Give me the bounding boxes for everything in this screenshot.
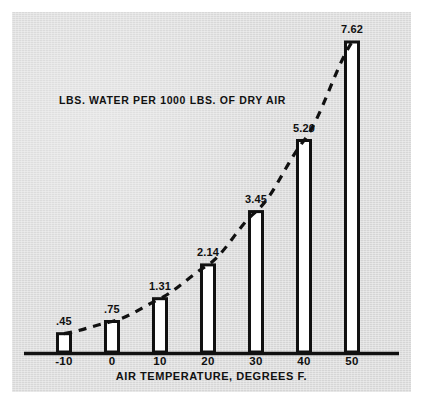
value-label-50: 7.62: [341, 23, 363, 35]
chart-figure: LBS. WATER PER 1000 LBS. OF DRY AIR .45 …: [12, 12, 411, 392]
bar-group: [58, 42, 359, 352]
bar-10: [154, 299, 167, 352]
bar-50: [346, 42, 359, 352]
value-label-minus10: .45: [56, 315, 72, 327]
x-axis-title: AIR TEMPERATURE, DEGREES F.: [12, 370, 411, 382]
plot-area: [12, 12, 411, 392]
x-tick-label-minus10: -10: [55, 355, 73, 367]
value-label-40: 5.20: [293, 122, 315, 134]
bar-40: [298, 141, 311, 353]
bar-minus10: [58, 334, 71, 352]
x-tick-label-0: 0: [109, 355, 116, 367]
chart-title: LBS. WATER PER 1000 LBS. OF DRY AIR: [59, 94, 286, 106]
x-tick-label-30: 30: [249, 355, 262, 367]
value-label-10: 1.31: [149, 280, 171, 292]
x-tick-label-20: 20: [201, 355, 214, 367]
x-tick-label-50: 50: [345, 355, 358, 367]
bar-30: [250, 212, 263, 352]
value-label-20: 2.14: [197, 246, 219, 258]
bar-20: [202, 265, 215, 352]
value-label-30: 3.45: [245, 193, 267, 205]
x-tick-label-10: 10: [153, 355, 166, 367]
x-tick-label-40: 40: [297, 355, 310, 367]
value-label-0: .75: [104, 303, 120, 315]
bar-0: [106, 322, 119, 353]
